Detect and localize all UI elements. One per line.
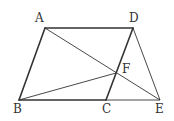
label-a: A bbox=[34, 11, 44, 25]
geometry-figure: ADBCEF bbox=[0, 0, 174, 121]
label-b: B bbox=[13, 102, 22, 116]
label-c: C bbox=[102, 102, 111, 116]
thick-segments bbox=[19, 28, 133, 100]
segment-de bbox=[133, 28, 160, 100]
segment-ab bbox=[19, 28, 45, 100]
label-d: D bbox=[129, 11, 139, 25]
label-f: F bbox=[122, 62, 130, 76]
thin-segments bbox=[19, 28, 160, 100]
segment-bf bbox=[19, 73, 116, 100]
label-e: E bbox=[155, 102, 164, 116]
segment-ae bbox=[45, 28, 160, 100]
